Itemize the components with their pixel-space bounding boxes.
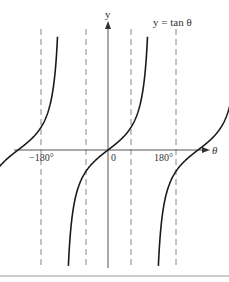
x-axis-arrow-icon (202, 147, 210, 153)
tick-label-180: 180° (154, 152, 173, 163)
x-axis-label: θ (212, 144, 218, 156)
y-axis-label: y (105, 8, 111, 20)
tan-graph: y y = tan θ θ −180° 0 180° (0, 0, 229, 282)
equation-label: y = tan θ (153, 16, 192, 28)
tick-label-neg180: −180° (29, 152, 54, 163)
y-axis-arrow-icon (105, 21, 111, 29)
tick-label-0: 0 (111, 152, 116, 163)
